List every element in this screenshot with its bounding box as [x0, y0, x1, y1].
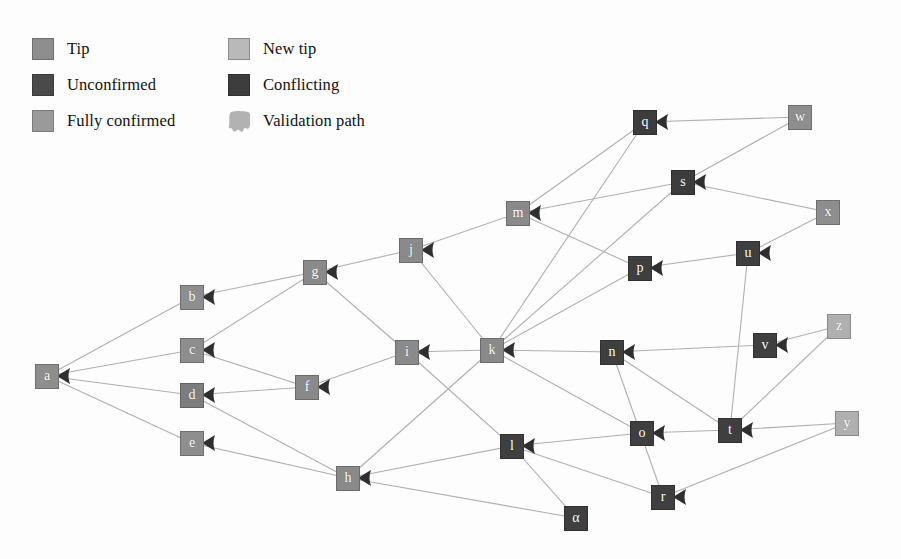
edge-t-to-n: [612, 352, 730, 430]
graph-node-label: j: [409, 243, 413, 257]
edge-w-to-q: [645, 117, 800, 122]
graph-node-label: m: [513, 206, 524, 220]
graph-node-g[interactable]: g: [303, 260, 327, 285]
graph-node-label: f: [305, 380, 310, 394]
edge-s-to-m: [518, 182, 683, 213]
graph-node-label: α: [572, 511, 579, 525]
graph-edges-layer: [0, 0, 901, 559]
graph-node-label: b: [189, 290, 196, 304]
edges-group: [47, 117, 847, 518]
graph-node-label: g: [312, 265, 319, 279]
graph-node-r[interactable]: r: [651, 485, 675, 510]
edge-i-to-f: [307, 352, 407, 387]
edge-h-to-d: [192, 395, 348, 478]
graph-node-label: y: [844, 416, 851, 430]
edge-m-to-j: [411, 213, 518, 250]
graph-node-v[interactable]: v: [753, 333, 777, 358]
edge-w-to-s: [683, 117, 800, 182]
graph-node-t[interactable]: t: [718, 418, 742, 443]
edge-y-to-r: [663, 423, 847, 497]
graph-node-label: s: [680, 175, 685, 189]
edge-t-to-u: [730, 253, 748, 430]
graph-node-label: p: [637, 261, 644, 275]
graph-node-label: w: [795, 110, 805, 124]
edge-k-to-h: [348, 350, 492, 478]
graph-node-a[interactable]: a: [35, 364, 59, 389]
graph-node-label: a: [44, 369, 50, 383]
edge-h-to-e: [192, 443, 348, 478]
graph-node-m[interactable]: m: [506, 201, 530, 226]
graph-node-o[interactable]: o: [630, 421, 654, 446]
graph-node-i[interactable]: i: [395, 340, 419, 365]
graph-node-y[interactable]: y: [835, 411, 859, 436]
graph-node-f[interactable]: f: [295, 375, 319, 400]
graph-node-b[interactable]: b: [180, 285, 204, 310]
graph-node-s[interactable]: s: [671, 170, 695, 195]
graph-node-w[interactable]: w: [788, 105, 812, 130]
graph-node-z[interactable]: z: [827, 314, 851, 339]
edge-l-to-h: [348, 446, 512, 478]
graph-node-label: d: [189, 388, 196, 402]
graph-node-label: o: [639, 426, 646, 440]
edge-alpha-to-h: [348, 478, 576, 518]
edge-f-to-c: [192, 350, 307, 387]
graph-node-h[interactable]: h: [336, 466, 360, 491]
edge-k-to-j: [411, 250, 492, 350]
graph-node-x[interactable]: x: [816, 200, 840, 225]
graph-node-k[interactable]: k: [480, 338, 504, 363]
edge-g-to-c: [192, 272, 315, 350]
graph-node-label: i: [405, 345, 409, 359]
graph-node-d[interactable]: d: [180, 383, 204, 408]
edge-i-to-g: [315, 272, 407, 352]
graph-node-label: u: [745, 246, 752, 260]
graph-node-e[interactable]: e: [180, 431, 204, 456]
graph-node-label: k: [489, 343, 496, 357]
graph-node-label: z: [836, 319, 842, 333]
edge-q-to-m: [518, 122, 645, 213]
graph-node-p[interactable]: p: [628, 256, 652, 281]
edge-j-to-g: [315, 250, 411, 272]
diagram-canvas: TipNew tipUnconfirmedConflictingFully co…: [0, 0, 901, 559]
graph-node-label: x: [825, 205, 832, 219]
edge-v-to-n: [612, 345, 765, 352]
graph-node-label: h: [345, 471, 352, 485]
graph-node-n[interactable]: n: [600, 340, 624, 365]
graph-node-l[interactable]: l: [500, 434, 524, 459]
graph-node-label: e: [189, 436, 195, 450]
edge-b-to-a: [47, 297, 192, 376]
graph-node-c[interactable]: c: [180, 338, 204, 363]
graph-node-alpha[interactable]: α: [564, 506, 588, 531]
graph-node-u[interactable]: u: [736, 241, 760, 266]
graph-node-q[interactable]: q: [633, 110, 657, 135]
graph-node-label: l: [510, 439, 514, 453]
graph-node-label: n: [609, 345, 616, 359]
edge-p-to-k: [492, 268, 640, 350]
graph-node-label: v: [762, 338, 769, 352]
graph-node-label: r: [661, 490, 666, 504]
edge-l-to-i: [407, 352, 512, 446]
graph-node-label: c: [189, 343, 195, 357]
graph-node-label: q: [642, 115, 649, 129]
graph-node-j[interactable]: j: [399, 238, 423, 263]
graph-node-label: t: [728, 423, 732, 437]
